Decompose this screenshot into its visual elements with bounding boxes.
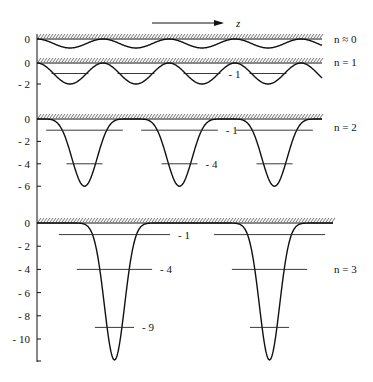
tick-label: - 2 bbox=[18, 78, 30, 90]
tick-label: - 6 bbox=[18, 287, 30, 299]
tick-label: - 2 bbox=[18, 240, 30, 252]
energy-level-label: - 4 bbox=[160, 263, 172, 275]
energy-level-label: - 4 bbox=[206, 158, 218, 170]
energy-level-label: - 1 bbox=[226, 124, 238, 136]
energy-level-label: - 1 bbox=[178, 229, 190, 241]
energy-level-label: - 9 bbox=[142, 321, 154, 333]
potential-curve bbox=[37, 39, 322, 48]
tick-label: - 10 bbox=[13, 333, 31, 345]
panel-n-label: n ≈ 0 bbox=[334, 33, 357, 45]
tick-label: - 4 bbox=[18, 158, 30, 170]
potential-curve bbox=[37, 119, 322, 186]
panel-n-label: n = 3 bbox=[334, 263, 357, 275]
energy-level-label: - 1 bbox=[228, 68, 240, 80]
z-axis-label: z bbox=[235, 17, 241, 29]
tick-label: - 8 bbox=[18, 310, 30, 322]
tick-label: - 6 bbox=[18, 180, 30, 192]
z-axis-arrow: z bbox=[152, 17, 241, 29]
panel-n0: 0n ≈ 0 bbox=[25, 33, 358, 48]
panel-n2: 0- 2- 4- 6- 1- 4n = 2 bbox=[18, 113, 357, 192]
panel-n1: 0- 2- 1n = 1 bbox=[18, 56, 357, 90]
tick-label: - 4 bbox=[18, 263, 30, 275]
tick-label: 0 bbox=[25, 217, 31, 229]
tick-label: 0 bbox=[25, 113, 31, 125]
diagram-canvas: z0n ≈ 00- 2- 1n = 10- 2- 4- 6- 1- 4n = 2… bbox=[0, 0, 373, 382]
potential-curve bbox=[37, 223, 333, 360]
tick-label: 0 bbox=[25, 57, 31, 69]
panel-n-label: n = 1 bbox=[334, 56, 357, 68]
panel-n-label: n = 2 bbox=[334, 121, 357, 133]
panel-n3: 0- 2- 4- 6- 8- 10- 1- 4- 9n = 3 bbox=[13, 217, 358, 361]
tick-label: - 2 bbox=[18, 135, 30, 147]
tick-label: 0 bbox=[25, 33, 31, 45]
